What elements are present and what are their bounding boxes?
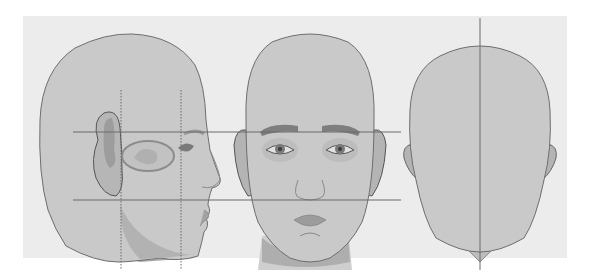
- back-head: [404, 18, 557, 270]
- head-proportions-figure: [0, 0, 589, 273]
- front-pupil-right: [338, 147, 342, 151]
- profile-head: [40, 34, 221, 270]
- front-head: [234, 34, 386, 270]
- front-pupil-left: [278, 147, 282, 151]
